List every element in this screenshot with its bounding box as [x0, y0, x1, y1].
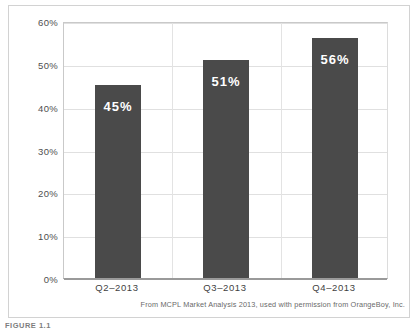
y-tick-label-50: 50%	[6, 59, 58, 70]
gridline-0	[64, 279, 387, 280]
x-tick-label-3: Q4–2013	[280, 282, 388, 293]
bar-Q3-2013[interactable]: 51%	[203, 60, 249, 278]
chart-plot-area: 45%51%56%	[63, 22, 388, 279]
y-tick-label-10: 10%	[6, 231, 58, 242]
bar-slot-1: 45%	[64, 23, 172, 278]
figure-number-label: FIGURE 1.1	[5, 321, 51, 329]
x-axis-tick-labels: Q2–2013Q3–2013Q4–2013	[63, 282, 388, 300]
bar-value-label-1: 45%	[95, 99, 141, 114]
y-tick-label-0: 0%	[6, 274, 58, 285]
y-tick-label-60: 60%	[6, 17, 58, 28]
y-tick-label-30: 30%	[6, 145, 58, 156]
y-axis-tick-labels: 0%10%20%30%40%50%60%	[0, 22, 58, 279]
bar-slot-3: 56%	[281, 23, 389, 278]
y-tick-label-40: 40%	[6, 102, 58, 113]
bar-Q4-2013[interactable]: 56%	[312, 38, 358, 278]
x-tick-label-2: Q3–2013	[171, 282, 279, 293]
x-tick-label-1: Q2–2013	[63, 282, 171, 293]
bar-slot-2: 51%	[172, 23, 280, 278]
y-tick-label-20: 20%	[6, 188, 58, 199]
bar-value-label-3: 56%	[312, 52, 358, 67]
chart-source-caption: From MCPL Market Analysis 2013, used wit…	[120, 300, 405, 309]
bar-Q2-2013[interactable]: 45%	[95, 85, 141, 278]
bar-value-label-2: 51%	[203, 74, 249, 89]
